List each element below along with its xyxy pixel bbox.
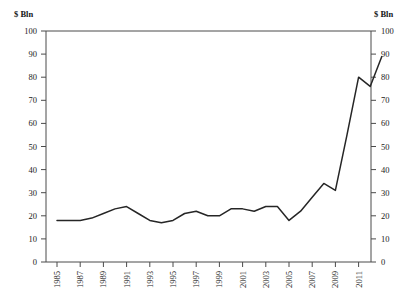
ytick-label: 60 — [29, 118, 38, 128]
xtick-label: 2001 — [238, 271, 248, 288]
ytick-label-right: 60 — [381, 118, 390, 128]
ytick-label-right: 20 — [381, 211, 390, 221]
ytick-label: 100 — [24, 26, 37, 36]
xtick-label: 2003 — [261, 271, 271, 288]
ytick-label: 40 — [29, 165, 38, 175]
ytick-label: 0 — [33, 257, 37, 267]
xtick-label: 1997 — [191, 271, 201, 288]
xtick-label: 1991 — [122, 271, 132, 288]
ytick-label: 10 — [29, 234, 38, 244]
y-axis-unit-label-right: $ Bln — [374, 9, 393, 19]
ytick-label: 90 — [29, 49, 38, 59]
xtick-label: 1995 — [168, 271, 178, 288]
ytick-label-right: 50 — [381, 142, 390, 152]
xtick-label: 2011 — [354, 271, 364, 288]
ytick-label-right: 0 — [381, 257, 385, 267]
ytick-label-right: 10 — [381, 234, 390, 244]
xtick-label: 2009 — [330, 271, 340, 288]
ytick-label-right: 100 — [381, 26, 394, 36]
ytick-label-right: 90 — [381, 49, 390, 59]
ytick-label-right: 40 — [381, 165, 390, 175]
ytick-label-right: 30 — [381, 188, 390, 198]
ytick-label: 80 — [29, 72, 38, 82]
chart-background — [0, 0, 412, 303]
xtick-label: 2005 — [284, 271, 294, 288]
xtick-label: 1987 — [75, 271, 85, 288]
ytick-label-right: 70 — [381, 95, 390, 105]
xtick-label: 2007 — [307, 271, 317, 288]
xtick-label: 1999 — [214, 271, 224, 288]
ytick-label: 50 — [29, 142, 38, 152]
ytick-label: 20 — [29, 211, 38, 221]
y-axis-unit-label-left: $ Bln — [14, 9, 33, 19]
ytick-label: 70 — [29, 95, 38, 105]
xtick-label: 1989 — [98, 271, 108, 288]
line-chart-figure: $ Bln $ Bln 100 90 80 70 60 50 40 30 20 … — [0, 0, 412, 303]
xtick-label: 1993 — [145, 271, 155, 288]
xtick-label: 1985 — [52, 271, 62, 288]
ytick-label-right: 80 — [381, 72, 390, 82]
ytick-label: 30 — [29, 188, 38, 198]
